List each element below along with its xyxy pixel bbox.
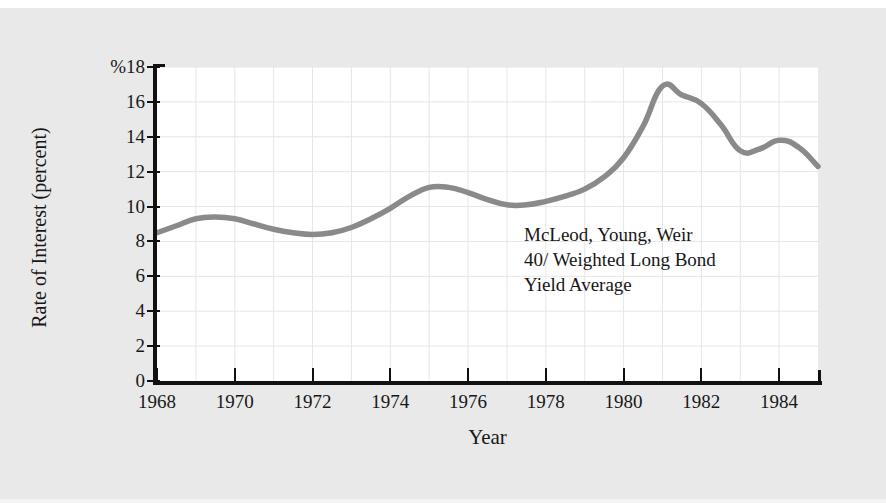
x-tick-label: 1984 xyxy=(734,392,824,411)
x-axis-title: Year xyxy=(157,425,818,450)
y-tick-mark xyxy=(147,101,160,103)
x-axis-right-cap xyxy=(818,370,821,385)
x-tick-mark xyxy=(234,368,236,382)
y-tick-label: 0 xyxy=(25,371,145,390)
y-tick-mark xyxy=(147,345,160,347)
x-tick-mark xyxy=(623,368,625,382)
y-tick-mark xyxy=(147,240,160,242)
y-tick-label: %18 xyxy=(25,57,145,76)
annotation-line-1: McLeod, Young, Weir xyxy=(524,222,716,247)
x-tick-mark xyxy=(467,368,469,382)
x-tick-label: 1972 xyxy=(268,392,358,411)
x-tick-mark xyxy=(312,368,314,382)
x-tick-label: 1974 xyxy=(345,392,435,411)
y-tick-mark xyxy=(147,171,160,173)
y-tick-mark xyxy=(147,310,160,312)
x-tick-mark xyxy=(156,368,158,382)
x-tick-label: 1968 xyxy=(112,392,202,411)
figure-canvas: 0246810121416%18 19681970197219741976197… xyxy=(0,0,886,503)
y-tick-mark xyxy=(147,206,160,208)
x-tick-mark xyxy=(545,368,547,382)
x-tick-label: 1978 xyxy=(501,392,591,411)
plot-area xyxy=(157,67,818,381)
annotation-line-3: Yield Average xyxy=(524,272,716,297)
x-tick-label: 1970 xyxy=(190,392,280,411)
x-tick-label: 1982 xyxy=(656,392,746,411)
x-tick-label: 1980 xyxy=(579,392,669,411)
x-tick-mark xyxy=(389,368,391,382)
y-tick-mark xyxy=(147,275,160,277)
x-axis-line xyxy=(153,381,822,385)
y-tick-mark xyxy=(147,66,160,68)
series-annotation: McLeod, Young, Weir 40/ Weighted Long Bo… xyxy=(524,222,716,297)
x-tick-mark xyxy=(778,368,780,382)
y-axis-title: Rate of Interest (percent) xyxy=(28,88,51,368)
x-tick-label: 1976 xyxy=(423,392,513,411)
y-tick-mark xyxy=(147,136,160,138)
series-line-bond-yield xyxy=(157,67,828,381)
annotation-line-2: 40/ Weighted Long Bond xyxy=(524,247,716,272)
x-tick-mark xyxy=(700,368,702,382)
y-axis-line xyxy=(153,64,157,384)
y-tick-mark xyxy=(147,380,160,382)
